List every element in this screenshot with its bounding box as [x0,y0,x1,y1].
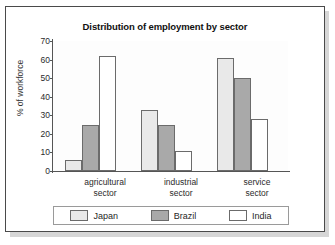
y-tick-mark-0 [50,171,53,172]
legend-label-japan: Japan [93,211,118,221]
bar-agricultural-india[interactable] [99,56,116,171]
y-tick-10: 10 [26,148,50,156]
x-category-line-1: industrial [164,177,198,187]
plot-wrapper: % of workforce 0 10 20 30 40 50 60 70 [6,7,326,233]
y-tick-20: 20 [26,130,50,138]
y-tick-labels: 0 10 20 30 40 50 60 70 [20,41,50,171]
bar-industrial-brazil[interactable] [158,125,175,171]
x-category-line-2: sector [93,188,116,198]
figure-frame: Distribution of employment by sector % o… [5,6,325,232]
x-category-line-1: agricultural [84,177,126,187]
x-axis-line [50,171,290,172]
y-tick-0: 0 [26,167,50,175]
bar-agricultural-japan[interactable] [65,160,82,171]
y-tick-50: 50 [26,74,50,82]
legend-label-brazil: Brazil [174,211,197,221]
chart-legend: Japan Brazil India [53,206,289,225]
x-category-label-industrial: industrial sector [141,177,221,198]
chart-screenshot: Distribution of employment by sector % o… [0,0,335,245]
y-tick-70: 70 [26,37,50,45]
bar-service-india[interactable] [251,119,268,171]
y-tick-60: 60 [26,56,50,64]
bar-industrial-japan[interactable] [141,110,158,171]
legend-swatch-brazil [151,210,169,221]
legend-swatch-india [229,210,247,221]
bar-industrial-india[interactable] [175,151,192,171]
legend-label-india: India [252,211,272,221]
x-category-line-1: service [244,177,271,187]
bar-service-japan[interactable] [217,58,234,171]
y-tick-40: 40 [26,93,50,101]
legend-item-india[interactable]: India [229,210,272,221]
x-category-line-2: sector [169,188,192,198]
legend-swatch-japan [70,210,88,221]
x-category-line-2: sector [245,188,268,198]
bar-service-brazil[interactable] [234,78,251,171]
legend-item-brazil[interactable]: Brazil [151,210,197,221]
x-category-label-service: service sector [217,177,297,198]
y-tick-30: 30 [26,111,50,119]
bars-layer [53,41,288,171]
legend-item-japan[interactable]: Japan [70,210,118,221]
x-category-label-agricultural: agricultural sector [65,177,145,198]
bar-agricultural-brazil[interactable] [82,125,99,171]
